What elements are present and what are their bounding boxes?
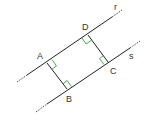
segment-dc — [88, 35, 108, 62]
right-angle-marker-c — [100, 56, 105, 65]
line-r — [17, 10, 122, 82]
geometry-diagram: A B C D r s — [0, 0, 149, 121]
right-angle-marker-a — [52, 60, 57, 70]
point-label-b: B — [66, 94, 72, 104]
point-label-c: C — [110, 66, 117, 76]
right-angle-marker-d — [82, 38, 91, 44]
point-label-d: D — [82, 22, 89, 32]
segment-ab — [47, 63, 67, 89]
line-label-s: s — [129, 51, 134, 61]
line-s — [36, 41, 140, 112]
point-label-a: A — [37, 51, 43, 61]
line-label-r: r — [114, 2, 117, 12]
